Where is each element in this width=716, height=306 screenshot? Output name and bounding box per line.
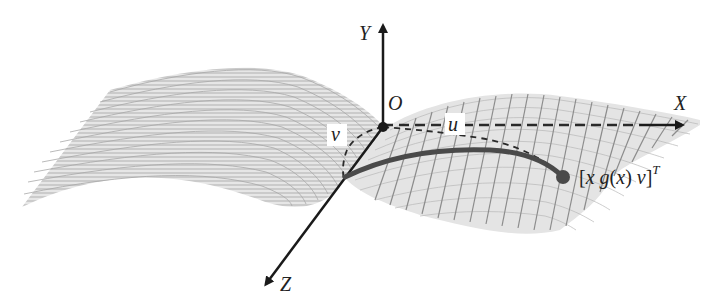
v-label: v — [331, 123, 340, 145]
surface-point — [556, 170, 570, 184]
x-axis-label: X — [673, 92, 687, 114]
z-axis-label: Z — [280, 273, 292, 295]
origin-point — [378, 122, 388, 132]
diagram-canvas: Y X Z O u v [xg(x)v]T — [0, 0, 716, 306]
origin-label: O — [388, 92, 402, 114]
y-axis-label: Y — [359, 22, 372, 44]
u-label: u — [448, 113, 458, 135]
point-coordinate-label: [xg(x)v]T — [579, 162, 660, 189]
right-surface-sheet — [345, 94, 700, 234]
